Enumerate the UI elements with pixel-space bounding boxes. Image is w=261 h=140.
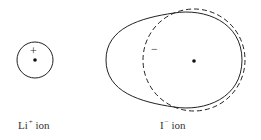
i-ion-label: I− ion <box>160 118 185 131</box>
i-label-suffix: ion <box>169 119 186 131</box>
i-label-base: I <box>160 119 164 131</box>
li-charge-symbol: + <box>30 44 37 59</box>
i-charge-symbol: − <box>151 42 158 57</box>
i-ion-nucleus-dot <box>192 59 196 63</box>
li-label-suffix: ion <box>33 119 50 131</box>
i-ion-polarized-shape <box>106 12 242 108</box>
li-ion-label: Li+ ion <box>18 118 50 131</box>
li-label-base: Li <box>18 119 28 131</box>
